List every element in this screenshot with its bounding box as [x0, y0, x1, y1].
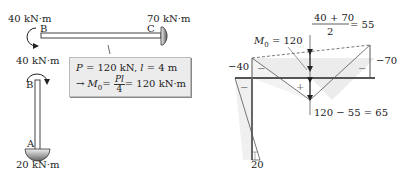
m0-label: M0 = 120: [254, 36, 303, 49]
sign-minus-column: −: [240, 83, 248, 93]
beam-bc: [41, 33, 161, 38]
bottom-value: 20: [251, 160, 264, 170]
node-label-b-column: B: [26, 80, 33, 90]
column-ba: [35, 80, 40, 160]
info-line-2: → M0= Pl 4 = 120 kN·m: [76, 75, 186, 94]
moment-label-a: 20 kN·m: [16, 160, 59, 170]
avg-result: = 55: [350, 20, 374, 30]
avg-numerator: 40 + 70: [314, 13, 354, 23]
right-end-value: −70: [376, 56, 397, 66]
avg-denominator: 2: [327, 27, 333, 37]
node-label-a: A: [27, 139, 34, 149]
info-line-1: P = 120 kN, l = 4 m: [76, 62, 177, 73]
sign-minus-right: −: [358, 64, 366, 74]
fixed-support-c: [161, 27, 167, 45]
fraction-pl-4: Pl 4: [114, 75, 125, 94]
moment-arrow-b-beam: [27, 28, 36, 46]
mid-value: 120 − 55 = 65: [314, 108, 388, 118]
left-end-value: −40: [228, 62, 249, 72]
moment-label-b-column: 40 kN·m: [16, 56, 59, 66]
sign-plus: +: [296, 82, 304, 92]
node-label-b-beam: B: [40, 24, 47, 34]
node-label-c: C: [147, 24, 155, 34]
sign-minus-left: −: [257, 64, 265, 74]
info-box: P = 120 kN, l = 4 m → M0= Pl 4 = 120 kN·…: [69, 57, 191, 97]
